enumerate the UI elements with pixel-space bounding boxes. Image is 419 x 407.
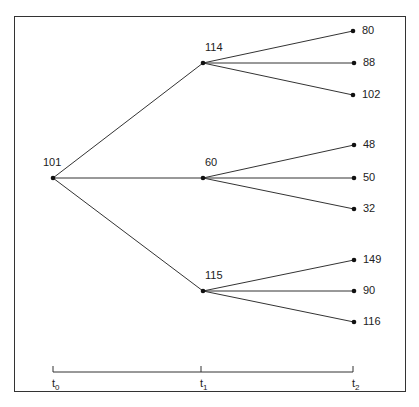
edge-root-to-t1 [53,63,203,178]
t2-node [352,61,357,66]
t1-node-label: 114 [205,41,223,53]
t2-node [351,93,356,98]
edge-root-to-t1 [53,178,203,291]
tree-diagram [0,0,419,407]
t2-node-label: 116 [363,315,381,327]
t2-node-label: 149 [363,253,381,265]
t2-node-label: 102 [362,88,380,100]
root-label: 101 [43,156,61,168]
t1-node [201,289,206,294]
t1-node-label: 60 [205,156,217,168]
t1-node [201,176,206,181]
edge-t1-to-t2 [203,31,353,63]
t1-node-label: 115 [205,269,223,281]
edge-t1-to-t2 [203,63,353,95]
edge-t1-to-t2 [203,291,354,322]
t2-node-label: 80 [362,24,374,36]
t1-node [201,61,206,66]
t2-node [352,289,357,294]
t2-node [352,258,357,263]
root-node [51,176,56,181]
edge-t1-to-t2 [203,260,354,291]
t2-node-label: 48 [363,138,375,150]
t2-node [352,320,357,325]
t2-node [351,29,356,34]
t2-node [352,143,357,148]
t2-node-label: 90 [363,284,375,296]
t2-node-label: 88 [363,56,375,68]
time-label-t0: t0 [52,377,60,392]
edge-t1-to-t2 [203,178,354,209]
time-label-t2: t2 [352,377,360,392]
t2-node [352,176,357,181]
edge-t1-to-t2 [203,145,354,178]
t2-node-label: 50 [363,171,375,183]
t2-node-label: 32 [363,202,375,214]
t2-node [352,207,357,212]
time-label-t1: t1 [200,377,208,392]
